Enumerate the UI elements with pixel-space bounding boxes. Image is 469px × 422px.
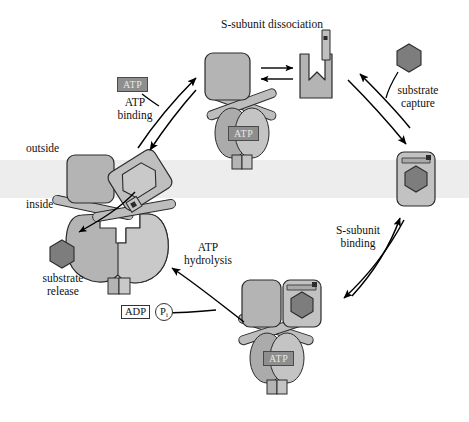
label-substrate-capture: substrate capture (377, 84, 459, 110)
label-substrate-release-line1: substrate (43, 272, 84, 284)
label-atp-binding-line1: ATP (125, 96, 145, 108)
s-subunit-loaded-lid (287, 285, 316, 290)
adp-badge: ADP (121, 305, 150, 319)
t-subunit-top (205, 53, 250, 100)
label-s-subunit-binding-line1: S-subunit (336, 224, 380, 236)
s-subunit-bound-bottom (283, 280, 321, 327)
pi-subscript: i (166, 311, 168, 319)
s-subunit-body (300, 54, 332, 98)
chamber-right-half (118, 214, 168, 283)
binding-site-marker-top (324, 36, 328, 40)
atp-badge-bottom-complex: ATP (263, 351, 294, 366)
state-bottom-complex (237, 280, 321, 394)
label-substrate-capture-line1: substrate (398, 84, 439, 96)
s-subunit-arm (322, 30, 330, 60)
atp-hydrolysis-arrow (172, 268, 244, 322)
label-substrate-capture-line2: capture (401, 97, 435, 109)
label-outside: outside (26, 142, 59, 155)
t-subunit-left (67, 155, 114, 203)
atpase-foot-left (232, 155, 242, 169)
pi-badge: Pi (155, 303, 173, 321)
label-substrate-release-line2: release (47, 285, 79, 297)
equilibrium-arrows (261, 68, 293, 79)
state-right-complex (397, 152, 435, 206)
label-atp-hydrolysis-line2: hydrolysis (184, 254, 232, 266)
atpase-foot-left (267, 380, 277, 394)
diagram-canvas: S-subunit dissociation substrate capture… (0, 0, 469, 422)
atpase-foot-right (277, 380, 287, 394)
atp-badge-top-complex: ATP (228, 126, 259, 141)
binding-site-marker-right (426, 155, 431, 160)
label-inside: inside (26, 198, 53, 211)
binding-site-marker-bottom (312, 282, 317, 287)
label-s-subunit-binding-line2: binding (340, 237, 375, 249)
label-atp-hydrolysis: ATP hydrolysis (172, 241, 244, 267)
label-s-subunit-binding: S-subunit binding (316, 224, 400, 250)
chamber-foot-right (119, 278, 130, 294)
label-s-subunit-dissociation: S-subunit dissociation (197, 18, 347, 31)
atpase-foot-right (242, 155, 252, 169)
label-atp-binding: ATP binding (104, 96, 166, 122)
label-atp-hydrolysis-line1: ATP (198, 241, 218, 253)
atp-badge-free: ATP (117, 77, 148, 92)
transport-cycle-diagram (0, 0, 469, 422)
label-atp-binding-line2: binding (117, 109, 152, 121)
s-subunit-dissociated (300, 30, 332, 98)
substrate-hexagon-free (397, 44, 421, 72)
s-subunit-loaded-lid (402, 158, 430, 163)
state-top-complex (205, 30, 332, 169)
t-subunit-bottom (242, 280, 281, 327)
label-substrate-release: substrate release (16, 272, 110, 298)
